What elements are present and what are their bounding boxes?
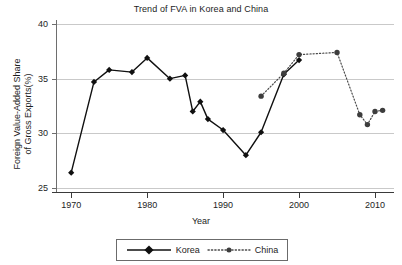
data-point-china-2008 [357,112,362,117]
data-point-china-2010 [372,109,377,114]
x-tick-mark-2010 [375,193,376,198]
data-point-korea-1985 [182,72,188,78]
legend-swatch-korea-line-icon [126,244,172,256]
data-point-china-2011 [380,108,385,113]
data-point-china-2005 [334,50,339,55]
y-tick-mark-35 [52,79,57,80]
legend-item-korea[interactable]: Korea [126,244,200,256]
x-tick-mark-1990 [223,193,224,198]
y-axis-title-line-2: of Gross Exports(%) [23,26,34,202]
x-tick-label-2000: 2000 [279,200,319,210]
y-tick-mark-30 [52,133,57,134]
legend-label-china: China [255,246,279,255]
x-tick-label-1990: 1990 [203,200,243,210]
x-tick-label-2010: 2010 [355,200,395,210]
legend-swatch-china-line-icon [207,244,251,256]
y-tick-label-40: 40 [26,20,48,29]
x-tick-mark-2000 [299,193,300,198]
y-tick-label-25: 25 [26,184,48,193]
x-tick-mark-1970 [71,193,72,198]
data-point-china-2009 [365,122,370,127]
series-line-china [261,52,383,124]
y-axis-title-line-1: Foreign Value-Added Share [12,26,23,202]
x-axis-title: Year [0,216,402,226]
y-tick-mark-40 [52,24,57,25]
chart-legend: Korea China [116,239,288,261]
gridline-y-25 [56,188,394,189]
x-tick-label-1980: 1980 [127,200,167,210]
y-tick-mark-25 [52,188,57,189]
plot-area [56,24,394,188]
data-point-korea-1970 [68,170,74,176]
x-tick-label-1970: 1970 [51,200,91,210]
data-point-china-1998 [281,71,286,76]
y-tick-label-35: 35 [26,75,48,84]
series-layer [56,24,394,188]
chart-title: Trend of FVA in Korea and China [0,4,402,14]
chart-figure: Trend of FVA in Korea and China Foreign … [0,0,402,265]
legend-item-china[interactable]: China [207,244,279,256]
legend-label-korea: Korea [176,246,200,255]
y-axis-title: Foreign Value-Added Share of Gross Expor… [12,26,34,202]
data-point-china-1995 [258,93,263,98]
x-tick-mark-1980 [147,193,148,198]
y-tick-label-30: 30 [26,129,48,138]
data-point-china-2000 [296,52,301,57]
